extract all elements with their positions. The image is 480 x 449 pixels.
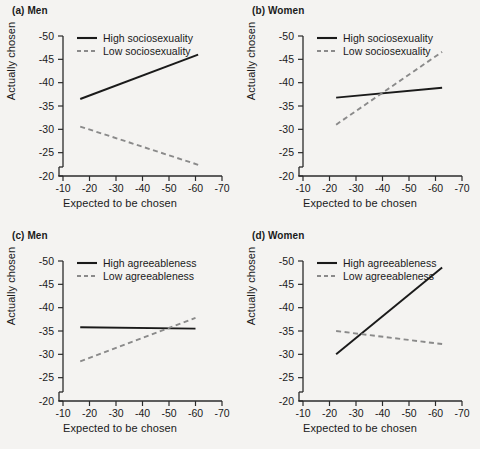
ytick-label: -45 [279,278,294,290]
ytick-label: -25 [279,371,294,383]
ytick-label: -25 [39,371,54,383]
plot-area-a: -50-45-40-35-30-25-20-10-20-30-40-50-60-… [0,0,240,224]
xtick-label: -10 [55,407,70,419]
ytick-label: -40 [39,76,54,88]
xtick-label: -20 [82,182,97,194]
ytick-label: -30 [39,123,54,135]
ytick-label: -30 [279,348,294,360]
series-line-high [80,55,198,99]
xtick-label: -20 [322,182,337,194]
chart-panel-d: (d) Women-50-45-40-35-30-25-20-10-20-30-… [240,225,480,449]
y-axis-title-a: Actually chosen [5,6,17,116]
ytick-label: -40 [39,301,54,313]
axes-c [59,261,222,401]
xtick-label: -20 [82,407,97,419]
ytick-label: -50 [39,30,54,42]
xtick-label: -70 [454,407,469,419]
ytick-label: -20 [39,170,54,182]
x-axis-title-a: Expected to be chosen [0,197,240,209]
plot-area-b: -50-45-40-35-30-25-20-10-20-30-40-50-60-… [240,0,480,224]
axes-d [299,261,462,401]
y-axis-title-d: Actually chosen [245,231,257,341]
ytick-label: -35 [39,325,54,337]
ytick-label: -40 [279,76,294,88]
ytick-label: -50 [279,255,294,267]
ytick-label: -20 [279,170,294,182]
xtick-label: -60 [428,182,443,194]
ytick-label: -30 [39,348,54,360]
ytick-label: -30 [279,123,294,135]
chart-panel-a: (a) Men-50-45-40-35-30-25-20-10-20-30-40… [0,0,240,224]
series-line-low [80,127,198,165]
ytick-label: -25 [39,146,54,158]
xtick-label: -70 [214,182,229,194]
legend-label: High sociosexuality [103,32,194,44]
legend-label: Low sociosexuality [343,45,431,57]
ytick-label: -45 [279,53,294,65]
legend-label: High sociosexuality [343,32,434,44]
xtick-label: -10 [295,407,310,419]
plot-area-d: -50-45-40-35-30-25-20-10-20-30-40-50-60-… [240,225,480,449]
xtick-label: -40 [135,407,150,419]
chart-panel-b: (b) Women-50-45-40-35-30-25-20-10-20-30-… [240,0,480,224]
xtick-label: -30 [348,407,363,419]
xtick-label: -50 [401,407,416,419]
ytick-label: -35 [279,325,294,337]
ytick-label: -50 [279,30,294,42]
ytick-label: -40 [279,301,294,313]
xtick-label: -20 [322,407,337,419]
xtick-label: -50 [161,182,176,194]
xtick-label: -10 [55,182,70,194]
ytick-label: -45 [39,53,54,65]
chart-panel-c: (c) Men-50-45-40-35-30-25-20-10-20-30-40… [0,225,240,449]
xtick-label: -30 [348,182,363,194]
series-line-high [80,327,195,328]
xtick-label: -40 [375,407,390,419]
x-axis-title-c: Expected to be chosen [0,422,240,434]
ytick-label: -35 [279,100,294,112]
series-line-low [336,52,442,125]
x-axis-title-d: Expected to be chosen [240,422,480,434]
xtick-label: -10 [295,182,310,194]
series-line-low [80,318,195,361]
xtick-label: -60 [188,407,203,419]
xtick-label: -70 [454,182,469,194]
legend-label: High agreeableness [103,257,196,269]
xtick-label: -60 [428,407,443,419]
legend-label: Low agreeableness [343,270,434,282]
xtick-label: -50 [401,182,416,194]
ytick-label: -50 [39,255,54,267]
xtick-label: -30 [108,407,123,419]
legend-label: Low agreeableness [103,270,194,282]
xtick-label: -40 [135,182,150,194]
x-axis-title-b: Expected to be chosen [240,197,480,209]
ytick-label: -20 [279,395,294,407]
ytick-label: -35 [39,100,54,112]
plot-area-c: -50-45-40-35-30-25-20-10-20-30-40-50-60-… [0,225,240,449]
xtick-label: -70 [214,407,229,419]
figure-container: (a) Men-50-45-40-35-30-25-20-10-20-30-40… [0,0,480,449]
ytick-label: -45 [39,278,54,290]
xtick-label: -40 [375,182,390,194]
y-axis-title-c: Actually chosen [5,231,17,341]
ytick-label: -25 [279,146,294,158]
legend-label: High agreeableness [343,257,436,269]
xtick-label: -60 [188,182,203,194]
xtick-label: -50 [161,407,176,419]
axes-b [299,36,462,176]
xtick-label: -30 [108,182,123,194]
y-axis-title-b: Actually chosen [245,6,257,116]
ytick-label: -20 [39,395,54,407]
axes-a [59,36,222,176]
legend-label: Low sociosexuality [103,45,191,57]
